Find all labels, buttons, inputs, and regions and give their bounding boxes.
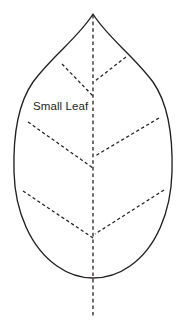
leaf-template-figure: Small Leaf bbox=[0, 0, 184, 322]
leaf-label: Small Leaf bbox=[33, 100, 89, 112]
leaf-outline-path bbox=[14, 14, 172, 278]
leaf-diagram-svg: Small Leaf bbox=[0, 0, 184, 322]
